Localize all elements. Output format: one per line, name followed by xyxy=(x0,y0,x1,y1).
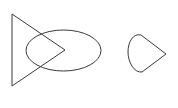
figure-svg: Geometric line drawing xyxy=(0,0,178,108)
triangle-shape xyxy=(12,14,65,86)
drawing-canvas: Geometric line drawing xyxy=(0,0,178,108)
teardrop-shape xyxy=(128,35,166,72)
